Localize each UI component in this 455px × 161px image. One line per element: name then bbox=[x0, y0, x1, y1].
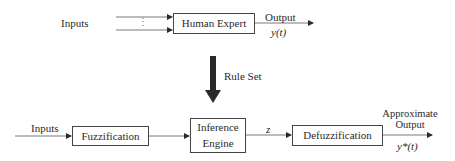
rule-set-label: Rule Set bbox=[224, 70, 262, 82]
inference-engine-box: Inference Engine bbox=[190, 118, 246, 153]
approximate-output-line2: Output bbox=[380, 119, 440, 130]
rule-set-arrow-icon bbox=[205, 56, 221, 103]
fuzzification-label: Fuzzification bbox=[81, 130, 139, 143]
top-output-symbol: y(t) bbox=[271, 26, 286, 38]
top-inputs-label: Inputs bbox=[61, 17, 89, 29]
approximate-output-label: Approximate Output bbox=[380, 108, 440, 130]
top-input-ellipsis: ⋮ bbox=[138, 17, 148, 27]
human-expert-box: Human Expert bbox=[173, 13, 255, 34]
bottom-inputs-label: Inputs bbox=[31, 122, 59, 134]
defuzzification-box: Defuzzification bbox=[292, 125, 383, 146]
approximate-output-line1: Approximate bbox=[380, 108, 440, 119]
top-output-label: Output bbox=[265, 11, 296, 23]
inference-engine-label-line2: Engine bbox=[202, 137, 233, 150]
fuzzification-box: Fuzzification bbox=[72, 126, 149, 146]
intermediate-z-label: z bbox=[266, 123, 270, 135]
inference-engine-label-line1: Inference bbox=[197, 121, 239, 134]
defuzzification-label: Defuzzification bbox=[303, 129, 371, 142]
approximate-output-symbol: y*(t) bbox=[397, 140, 418, 152]
human-expert-label: Human Expert bbox=[182, 17, 246, 30]
